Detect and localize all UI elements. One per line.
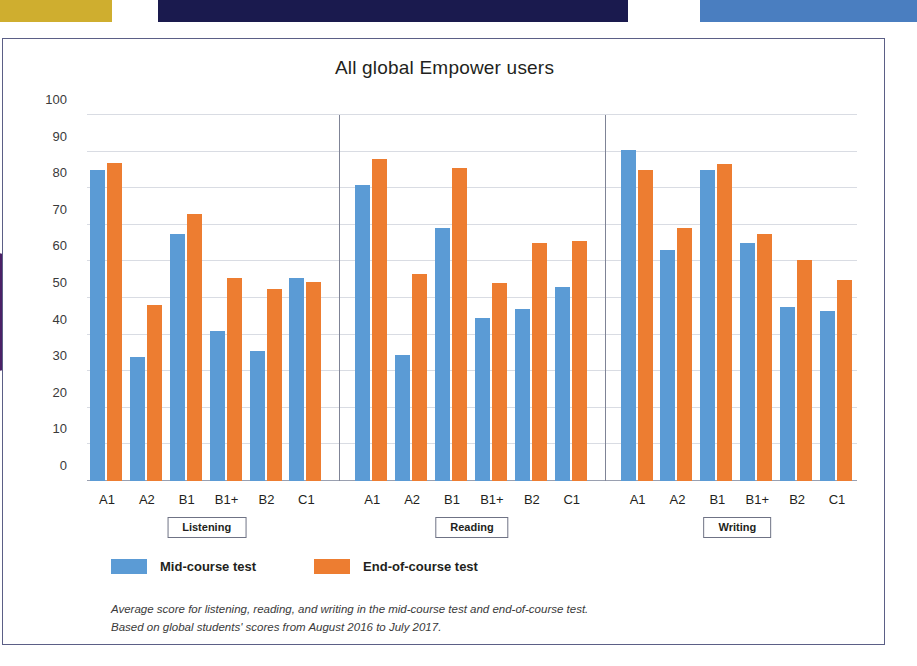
banner-block-blue	[700, 0, 917, 22]
bar-pair-reading-c1: C1	[552, 115, 592, 481]
bar-mid-course	[170, 234, 185, 481]
chart-title: All global Empower users	[3, 57, 886, 79]
bar-pair-reading-b1plus: B1+	[472, 115, 512, 481]
bar-mid-course	[250, 351, 265, 481]
bar-end-of-course	[187, 214, 202, 481]
bar-end-of-course	[837, 280, 852, 481]
bar-mid-course	[515, 309, 530, 481]
footnote-line-1: Average score for listening, reading, an…	[111, 601, 811, 619]
legend-swatch	[314, 559, 350, 574]
chart-footnote: Average score for listening, reading, an…	[111, 601, 811, 637]
decorative-top-banner	[0, 0, 917, 22]
chart-frame: All global Empower users 010203040506070…	[2, 38, 885, 645]
bar-end-of-course	[372, 159, 387, 481]
bar-mid-course	[90, 170, 105, 481]
bar-mid-course	[355, 185, 370, 481]
bar-mid-course	[820, 311, 835, 481]
plot-area: 0102030405060708090100 A1A2B1B1+B2C1A1A2…	[87, 115, 857, 481]
bar-mid-course	[700, 170, 715, 481]
skill-label-writing: Writing	[703, 517, 771, 538]
bar-end-of-course	[267, 289, 282, 481]
bar-end-of-course	[412, 274, 427, 481]
bar-pair-listening-b2: B2	[247, 115, 287, 481]
bar-mid-course	[621, 150, 636, 481]
legend-label: End-of-course test	[363, 559, 478, 574]
legend-swatch	[111, 559, 147, 574]
bar-mid-course	[475, 318, 490, 481]
bar-pair-writing-a1: A1	[618, 115, 658, 481]
bar-group-listening: A1A2B1B1+B2C1	[87, 115, 326, 481]
bar-end-of-course	[306, 282, 321, 481]
bar-group-reading: A1A2B1B1+B2C1	[352, 115, 591, 481]
bar-end-of-course	[638, 170, 653, 481]
y-axis-tick-label: 40	[27, 312, 67, 327]
bar-end-of-course	[147, 305, 162, 481]
bar-pair-writing-c1: C1	[817, 115, 857, 481]
bar-pair-listening-b1: B1	[167, 115, 207, 481]
bar-pair-writing-b1: B1	[697, 115, 737, 481]
bar-pair-listening-a2: A2	[127, 115, 167, 481]
bar-end-of-course	[717, 164, 732, 481]
y-axis-tick-label: 0	[27, 458, 67, 473]
bar-mid-course	[660, 250, 675, 481]
bar-end-of-course	[107, 163, 122, 481]
bar-end-of-course	[227, 278, 242, 481]
bar-pair-writing-b1plus: B1+	[737, 115, 777, 481]
bar-mid-course	[740, 243, 755, 481]
footnote-line-2: Based on global students' scores from Au…	[111, 619, 811, 637]
bar-mid-course	[395, 355, 410, 481]
legend-item-end-of-course-test: End-of-course test	[314, 559, 478, 574]
bar-end-of-course	[572, 241, 587, 481]
y-axis-tick-label: 20	[27, 385, 67, 400]
bar-end-of-course	[492, 283, 507, 481]
group-separator	[605, 115, 606, 481]
bar-group-writing: A1A2B1B1+B2C1	[618, 115, 857, 481]
y-axis-tick-label: 60	[27, 238, 67, 253]
y-axis-tick-label: 100	[27, 92, 67, 107]
bar-pair-reading-b2: B2	[512, 115, 552, 481]
skill-label-listening: Listening	[167, 517, 246, 538]
bar-end-of-course	[677, 228, 692, 481]
bar-pair-writing-b2: B2	[777, 115, 817, 481]
bar-mid-course	[780, 307, 795, 481]
banner-block-gold	[0, 0, 112, 22]
y-axis-tick-label: 70	[27, 202, 67, 217]
bar-end-of-course	[532, 243, 547, 481]
bar-end-of-course	[757, 234, 772, 481]
x-axis-tick-label: C1	[547, 492, 597, 507]
y-axis-tick-label: 50	[27, 275, 67, 290]
bar-end-of-course	[452, 168, 467, 481]
bar-pair-reading-b1: B1	[432, 115, 472, 481]
y-axis-tick-label: 10	[27, 421, 67, 436]
bar-mid-course	[210, 331, 225, 481]
y-axis-tick-label: 30	[27, 348, 67, 363]
bar-mid-course	[289, 278, 304, 481]
bar-mid-course	[555, 287, 570, 481]
x-axis-tick-label: C1	[812, 492, 862, 507]
legend-label: Mid-course test	[160, 559, 256, 574]
bar-pair-reading-a1: A1	[352, 115, 392, 481]
bar-pair-listening-c1: C1	[286, 115, 326, 481]
y-axis-tick-label: 90	[27, 129, 67, 144]
bar-pair-reading-a2: A2	[392, 115, 432, 481]
bar-pair-listening-b1plus: B1+	[207, 115, 247, 481]
bar-pair-listening-a1: A1	[87, 115, 127, 481]
bar-pair-writing-a2: A2	[657, 115, 697, 481]
y-axis-tick-label: 80	[27, 165, 67, 180]
legend-item-mid-course-test: Mid-course test	[111, 559, 256, 574]
bar-mid-course	[130, 357, 145, 481]
group-separator	[339, 115, 340, 481]
x-axis-tick-label: C1	[281, 492, 331, 507]
chart-legend: Mid-course testEnd-of-course test	[111, 559, 478, 574]
skill-label-reading: Reading	[435, 517, 508, 538]
bar-end-of-course	[797, 260, 812, 481]
banner-block-navy	[158, 0, 628, 22]
bar-mid-course	[435, 228, 450, 481]
